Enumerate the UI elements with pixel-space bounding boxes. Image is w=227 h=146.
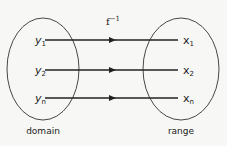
domain-element-y1: y1	[34, 34, 46, 48]
domain-element-y2: y2	[34, 64, 46, 78]
domain-caption: domain	[26, 126, 60, 136]
mapping-arrow-2	[45, 67, 178, 73]
arrowhead-icon	[109, 95, 116, 101]
range-caption: range	[168, 126, 195, 136]
function-superscript: −1	[110, 15, 120, 23]
arrowhead-icon	[109, 37, 116, 43]
inverse-function-mapping-diagram: f−1 y1 y2 yn x1 x2 xn domain range	[0, 0, 227, 146]
function-label: f−1	[106, 15, 120, 27]
range-set-ellipse	[143, 18, 219, 120]
mapping-arrow-n	[45, 95, 178, 101]
range-element-x2: x2	[183, 64, 194, 78]
domain-element-yn: yn	[34, 92, 46, 106]
range-element-x1: x1	[183, 34, 194, 48]
range-element-xn: xn	[183, 92, 194, 106]
mapping-arrow-1	[45, 37, 178, 43]
arrowhead-icon	[109, 67, 116, 73]
